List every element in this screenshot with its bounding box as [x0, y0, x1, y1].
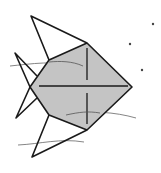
bubble-icon [129, 43, 131, 45]
fish-drawing [0, 0, 161, 173]
bubble-icon [141, 69, 143, 71]
fish-illustration [0, 0, 161, 173]
water-line-bottom [18, 141, 84, 145]
bubble-icon [152, 23, 154, 25]
